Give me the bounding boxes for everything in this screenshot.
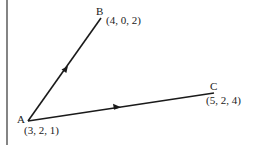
vector-ac-line: [28, 93, 214, 121]
point-b-label: B: [96, 6, 103, 17]
vector-ac-arrowhead-icon: [113, 104, 121, 110]
point-a-coordinates: (3, 2, 1): [24, 125, 59, 136]
point-b-coordinates: (4, 0, 2): [106, 15, 141, 26]
point-c-label: C: [210, 81, 217, 92]
point-c-coordinates: (5, 2, 4): [206, 95, 241, 106]
